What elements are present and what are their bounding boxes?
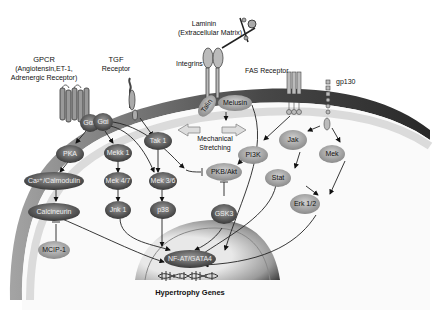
node-melusin: Melusin: [218, 95, 252, 111]
hypertrophy-pathway-diagram: Gαq Gαi PKA Ca²⁺/Calmodulin Calcineurin …: [0, 0, 435, 310]
svg-text:Erk 1/2: Erk 1/2: [294, 200, 316, 207]
svg-text:Mek: Mek: [325, 150, 339, 157]
label-gpcr-line3: Adrenergic Receptor): [11, 74, 78, 82]
svg-text:Tak 1: Tak 1: [150, 137, 167, 144]
svg-text:Jnk 1: Jnk 1: [110, 206, 127, 213]
node-mek47: Mek 4/7: [104, 172, 132, 190]
svg-text:Jak: Jak: [288, 136, 299, 143]
label-fas: FAS Receptor: [245, 67, 289, 75]
svg-text:Gαi: Gαi: [97, 118, 108, 125]
label-hypertrophy-genes: Hypertrophy Genes: [155, 288, 225, 297]
node-ca-calmodulin: Ca²⁺/Calmodulin: [24, 172, 84, 190]
integrin-receptor-icon: [203, 48, 223, 98]
label-gpcr-line2: (Angiotensin,ET-1,: [15, 65, 73, 73]
svg-text:Mek 4/7: Mek 4/7: [106, 177, 131, 184]
svg-text:Calcineurin: Calcineurin: [36, 208, 71, 215]
node-mek: Mek: [319, 145, 345, 163]
node-tak1: Tak 1: [144, 132, 172, 150]
svg-text:p38: p38: [157, 206, 169, 214]
label-tgf-line2: Receptor: [102, 65, 131, 73]
node-mek36: Mek 3/6: [149, 172, 177, 190]
node-jnk1: Jnk 1: [105, 201, 131, 219]
svg-text:PKB/Akt: PKB/Akt: [211, 168, 237, 175]
svg-text:NF-AT/GATA4: NF-AT/GATA4: [168, 255, 212, 262]
node-pi3k: PI3K: [238, 146, 268, 164]
svg-text:MCIP-1: MCIP-1: [42, 246, 66, 253]
svg-text:Mekk 1: Mekk 1: [107, 149, 130, 156]
node-jak: Jak: [279, 130, 307, 150]
label-integrins: Integrins: [176, 60, 203, 68]
fas-receptor-icon: [287, 72, 302, 115]
svg-text:Ca²⁺/Calmodulin: Ca²⁺/Calmodulin: [28, 177, 80, 184]
node-gsk3: GSK3: [211, 204, 237, 224]
svg-text:Melusin: Melusin: [223, 99, 247, 106]
node-erk12: Erk 1/2: [290, 194, 320, 214]
svg-text:PKA: PKA: [63, 150, 77, 157]
label-stretching: Stretching: [199, 144, 231, 152]
node-p38: p38: [150, 201, 176, 219]
node-pka: PKA: [56, 145, 84, 163]
node-calcineurin: Calcineurin: [28, 203, 80, 221]
svg-text:PI3K: PI3K: [245, 151, 261, 158]
label-laminin-line2: (Extracellular Matrix): [178, 29, 242, 37]
svg-text:GSK3: GSK3: [215, 210, 234, 217]
label-laminin: Laminin: [192, 20, 217, 27]
node-gai: Gαi: [93, 113, 113, 131]
node-nfat-gata4: NF-AT/GATA4: [164, 250, 216, 268]
label-tgf: TGF: [109, 55, 124, 64]
node-mcip1: MCIP-1: [38, 241, 70, 259]
node-stat: Stat: [265, 169, 291, 187]
label-gp130: gp130: [336, 78, 356, 86]
label-mechanical: Mechanical: [197, 135, 233, 142]
svg-text:Mek 3/6: Mek 3/6: [151, 177, 176, 184]
svg-text:Stat: Stat: [272, 174, 285, 181]
node-mekk1: Mekk 1: [104, 144, 132, 162]
label-gpcr: GPCR: [33, 55, 55, 64]
node-pkb-akt: PKB/Akt: [206, 163, 242, 181]
